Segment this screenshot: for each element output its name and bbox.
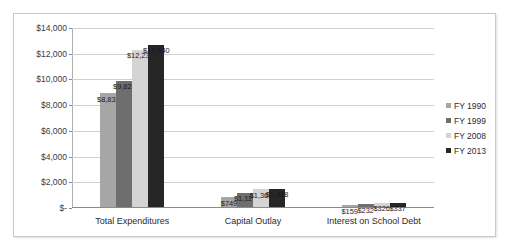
y-axis-tick-mark — [69, 105, 72, 106]
bar-group: $8,832$9,823$12,238$12,640 — [100, 27, 164, 207]
chart-legend: FY 1990FY 1999FY 2008FY 2013 — [446, 98, 486, 158]
y-axis-tick-mark — [69, 131, 72, 132]
bar-value-label: $337 — [389, 205, 405, 212]
legend-swatch-icon — [446, 118, 451, 123]
bar-group: $749$1,119$1,368$1,418 — [221, 27, 285, 207]
legend-label: FY 1999 — [454, 116, 486, 126]
bar[interactable]: $232 — [358, 204, 374, 207]
legend-swatch-icon — [446, 133, 451, 138]
bar-value-label: $232 — [357, 207, 373, 214]
y-axis-tick-label: $10,000 — [36, 74, 67, 84]
y-axis-tick-label: $- — [59, 203, 67, 213]
legend-swatch-icon — [446, 103, 451, 108]
bar[interactable]: $159 — [342, 205, 358, 207]
bar[interactable]: $8,832 — [100, 93, 116, 207]
bar[interactable]: $12,640 — [148, 45, 164, 208]
bar[interactable]: $337 — [390, 203, 406, 207]
legend-item[interactable]: FY 2008 — [446, 128, 486, 143]
y-axis-tick-label: $2,000 — [41, 177, 67, 187]
y-axis-tick-mark — [69, 79, 72, 80]
y-axis-tick-label: $14,000 — [36, 23, 67, 33]
bar[interactable]: $326 — [374, 203, 390, 207]
bar[interactable]: $12,238 — [132, 50, 148, 207]
bar[interactable]: $1,418 — [269, 189, 285, 207]
x-axis-category-label: Interest on School Debt — [327, 216, 421, 226]
legend-item[interactable]: FY 1990 — [446, 98, 486, 113]
bar-value-label: $159 — [341, 208, 357, 215]
bar-value-label: $1,418 — [266, 191, 289, 198]
chart-container: $-$2,000$4,000$6,000$8,000$10,000$12,000… — [13, 13, 496, 237]
x-axis-category-label: Total Expenditures — [95, 216, 169, 226]
legend-label: FY 2008 — [454, 131, 486, 141]
y-axis-tick-mark — [69, 208, 72, 209]
y-axis-line — [72, 28, 73, 208]
y-axis-tick-mark — [69, 28, 72, 29]
y-axis-tick-mark — [69, 157, 72, 158]
bar-value-label: $326 — [373, 205, 389, 212]
y-axis-tick-label: $8,000 — [41, 100, 67, 110]
y-axis-tick-mark — [69, 182, 72, 183]
legend-item[interactable]: FY 1999 — [446, 113, 486, 128]
y-axis-tick-label: $4,000 — [41, 152, 67, 162]
bar[interactable]: $9,823 — [116, 81, 132, 207]
legend-item[interactable]: FY 2013 — [446, 143, 486, 158]
legend-swatch-icon — [446, 148, 451, 153]
x-axis-category-label: Capital Outlay — [225, 216, 282, 226]
legend-label: FY 1990 — [454, 101, 486, 111]
bar-group: $159$232$326$337 — [342, 27, 406, 207]
y-axis-tick-label: $6,000 — [41, 126, 67, 136]
y-axis-tick-mark — [69, 54, 72, 55]
legend-label: FY 2013 — [454, 146, 486, 156]
bar-value-label: $12,640 — [143, 47, 170, 54]
plot-area: $-$2,000$4,000$6,000$8,000$10,000$12,000… — [72, 28, 434, 208]
y-axis-tick-label: $12,000 — [36, 49, 67, 59]
